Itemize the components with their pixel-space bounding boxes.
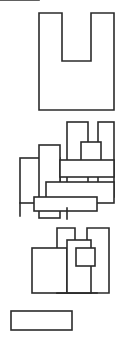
bottom-figure [11, 228, 109, 330]
rect-h-baseline [34, 197, 97, 211]
rect-left-overlay [32, 248, 67, 293]
figure-sheet [0, 0, 135, 339]
u-outline-top [39, 13, 114, 110]
line-drawing-canvas [0, 0, 135, 339]
detached-rectangle [11, 311, 72, 330]
rect-f-wide-mid [60, 160, 114, 177]
middle-figure [20, 122, 114, 219]
rect-small-upper [76, 248, 95, 266]
top-figure [0, 0, 114, 110]
